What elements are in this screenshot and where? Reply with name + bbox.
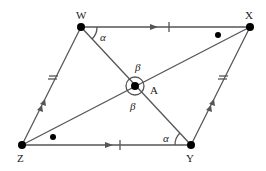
arrow-yx-1	[209, 99, 215, 106]
arrow-zy	[105, 142, 113, 148]
point-a	[131, 82, 139, 90]
parallelogram-diagram: W X Y Z A α α β β	[0, 0, 266, 171]
label-alpha-y: α	[163, 132, 169, 144]
angle-dot-x	[215, 32, 221, 38]
angle-arc-y	[175, 133, 180, 145]
point-x	[246, 23, 254, 31]
label-z: Z	[17, 152, 24, 164]
label-y: Y	[186, 152, 194, 164]
label-x: X	[245, 9, 253, 21]
arrow-wx	[150, 24, 158, 30]
point-w	[77, 23, 85, 31]
label-beta-bottom: β	[129, 100, 136, 112]
point-z	[18, 141, 26, 149]
angle-arc-w	[92, 27, 97, 39]
arrow-zw-2	[37, 105, 43, 112]
side-zw	[22, 27, 81, 145]
side-xy	[191, 27, 250, 145]
label-beta-top: β	[134, 61, 141, 73]
label-w: W	[76, 9, 87, 21]
arrow-zw-1	[40, 99, 46, 106]
arrow-yx-2	[206, 105, 212, 112]
label-a: A	[150, 84, 158, 96]
label-alpha-w: α	[100, 31, 106, 43]
point-y	[187, 141, 195, 149]
angle-dot-z	[50, 134, 56, 140]
